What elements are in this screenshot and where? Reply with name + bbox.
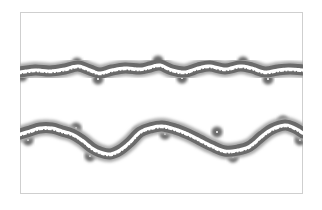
band-layer — [20, 65, 303, 156]
upper-band — [20, 65, 303, 75]
lower-band — [20, 125, 303, 156]
nodule-highlight — [216, 131, 218, 133]
fiber-bands-plot — [0, 0, 322, 210]
figure-canvas — [0, 0, 322, 210]
